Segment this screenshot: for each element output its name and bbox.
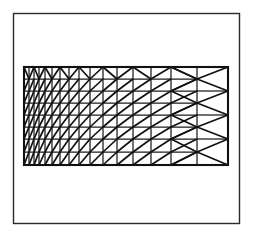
outer-frame	[14, 14, 240, 224]
figure-root: Triangular finite element mesh	[0, 0, 253, 236]
mesh-diagram: Triangular finite element mesh	[0, 0, 253, 236]
